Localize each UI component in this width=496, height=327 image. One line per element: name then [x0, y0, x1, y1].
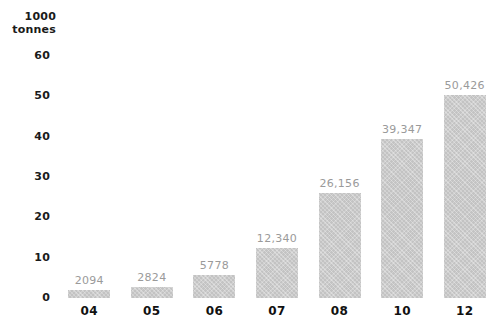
bar-value-label: 50,426 [430, 79, 496, 92]
x-axis-category-label: 06 [179, 304, 249, 318]
x-axis-category-label: 10 [367, 304, 437, 318]
bar-value-label: 2094 [54, 274, 124, 287]
y-axis-tick-label: 60 [0, 50, 50, 62]
x-axis-category-label: 04 [54, 304, 124, 318]
y-axis-tick-label: 0 [0, 292, 50, 304]
y-axis-unit-label: 1000 tonnes [0, 10, 56, 36]
bar-group: 50,42612 [444, 56, 486, 298]
y-axis-tick-label: 30 [0, 171, 50, 183]
bar[interactable] [193, 275, 235, 298]
bar[interactable] [68, 290, 110, 298]
bar[interactable] [319, 193, 361, 298]
y-axis-tick-label: 20 [0, 211, 50, 223]
bar[interactable] [256, 248, 298, 298]
bar-value-label: 5778 [179, 259, 249, 272]
bar-chart: 1000 tonnes 20940428240557780612,3400726… [0, 0, 496, 327]
bar[interactable] [131, 287, 173, 298]
bar-group: 39,34710 [381, 56, 423, 298]
bar-group: 12,34007 [256, 56, 298, 298]
x-axis-category-label: 12 [430, 304, 496, 318]
plot-area: 20940428240557780612,3400726,1560839,347… [58, 56, 496, 298]
bar-value-label: 2824 [117, 271, 187, 284]
y-axis-tick-label: 50 [0, 90, 50, 102]
bar-value-label: 12,340 [242, 232, 312, 245]
bar[interactable] [444, 95, 486, 298]
x-axis-category-label: 08 [305, 304, 375, 318]
bar-value-label: 39,347 [367, 123, 437, 136]
bar-group: 577806 [193, 56, 235, 298]
x-axis-category-label: 07 [242, 304, 312, 318]
y-axis-tick-label: 40 [0, 131, 50, 143]
bar-group: 209404 [68, 56, 110, 298]
bar-group: 26,15608 [319, 56, 361, 298]
y-axis-unit-line-1: 1000 [0, 10, 56, 23]
x-axis-category-label: 05 [117, 304, 187, 318]
bar-value-label: 26,156 [305, 177, 375, 190]
bar-group: 282405 [131, 56, 173, 298]
y-axis-tick-label: 10 [0, 252, 50, 264]
y-axis-unit-line-2: tonnes [0, 23, 56, 36]
bar[interactable] [381, 139, 423, 298]
